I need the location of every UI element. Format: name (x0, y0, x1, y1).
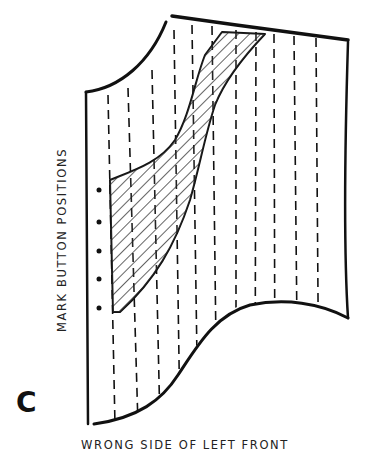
side-label: MARK BUTTON POSITIONS (55, 148, 69, 332)
pattern-diagram: MARK BUTTON POSITIONS C WRONG SIDE OF LE… (0, 0, 370, 468)
figure-caption: WRONG SIDE OF LEFT FRONT (0, 438, 370, 452)
button-mark (97, 277, 102, 282)
button-marks (97, 188, 102, 311)
button-mark (97, 188, 102, 193)
button-mark (97, 249, 102, 254)
figure-letter: C (16, 386, 37, 419)
button-mark (97, 220, 102, 225)
button-mark (97, 306, 102, 311)
